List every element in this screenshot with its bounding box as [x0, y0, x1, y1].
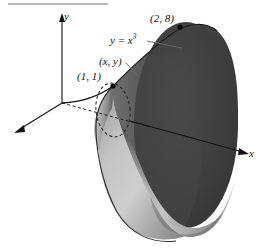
- point-label-1-1: (1, 1): [77, 71, 101, 82]
- point-marker-2-8: [177, 24, 182, 29]
- axes-group: [14, 13, 65, 133]
- figure-root: y x (2, 8) y = x3 (x, y) (1, 1): [0, 0, 268, 251]
- curve-equation-text: y = x: [110, 34, 133, 46]
- point-marker-1-1: [110, 83, 115, 88]
- x-axis-arrowhead: [238, 148, 249, 155]
- point-label-x-y: (x, y): [99, 56, 122, 67]
- z-axis-arrowhead: [14, 125, 25, 133]
- z-axis-line: [20, 103, 62, 129]
- x-axis-label: x: [249, 148, 254, 159]
- y-axis-label: y: [64, 11, 69, 22]
- point-label-2-8: (2, 8): [150, 13, 174, 24]
- curve-equation-exponent: 3: [133, 32, 137, 41]
- curve-equation-label: y = x3: [110, 33, 136, 46]
